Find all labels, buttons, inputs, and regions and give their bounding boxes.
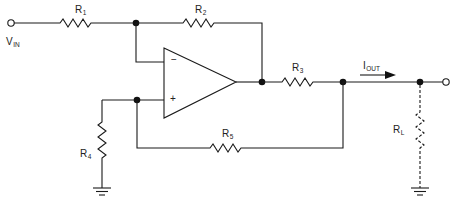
schematic-svg (0, 0, 458, 204)
r3-resistor (262, 78, 343, 86)
opamp-inverting-sign: − (171, 55, 177, 65)
circuit-diagram: VIN R1 R2 R3 R4 R5 RL IOUT − + (0, 0, 458, 204)
r1-resistor (14, 19, 136, 27)
rl-ground-icon (411, 188, 429, 195)
output-terminal (443, 79, 449, 85)
r1-label: R1 (75, 5, 86, 17)
r4-resistor (98, 100, 106, 188)
r2-label: R2 (195, 5, 206, 17)
r5-resistor (137, 82, 343, 152)
opamp-noninverting-sign: + (170, 94, 176, 104)
r4-label: R4 (80, 149, 91, 161)
vin-label: VIN (6, 37, 20, 49)
r3-label: R3 (292, 63, 303, 75)
iout-label: IOUT (363, 61, 380, 73)
r2-resistor (136, 19, 262, 82)
vin-terminal (8, 20, 14, 26)
rl-resistor (416, 85, 424, 188)
inverting-input-wire (136, 23, 164, 62)
node-rl (417, 79, 424, 86)
rl-label: RL (393, 125, 404, 137)
iout-arrow-head (385, 71, 396, 79)
r4-ground-icon (93, 188, 111, 195)
r5-label: R5 (222, 129, 233, 141)
